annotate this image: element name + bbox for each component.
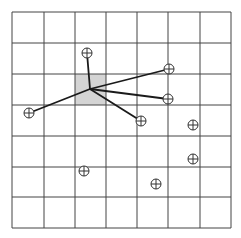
circle-plus-icon xyxy=(82,48,92,58)
edges xyxy=(29,53,169,121)
circle-plus-icon xyxy=(163,94,173,104)
circle-plus-icon xyxy=(79,166,89,176)
grid-lines xyxy=(12,12,231,228)
circle-plus-icon xyxy=(136,116,146,126)
circle-plus-icon xyxy=(24,108,34,118)
circle-plus-icon xyxy=(188,154,198,164)
circle-plus-icon xyxy=(151,179,161,189)
circle-plus-icon xyxy=(188,120,198,130)
point-markers xyxy=(24,48,198,189)
circle-plus-icon xyxy=(164,64,174,74)
grid-diagram xyxy=(0,0,241,238)
